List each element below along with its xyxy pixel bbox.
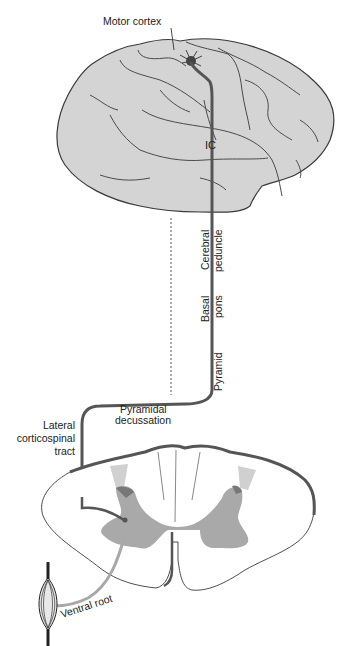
corticospinal-pathway-diagram: Motor cortex IC Cerebral peduncle Basal … <box>0 0 349 646</box>
diagram-canvas: Motor cortex IC Cerebral peduncle Basal … <box>0 0 349 646</box>
label-cerebral-peduncle-line1: Cerebral <box>199 230 211 270</box>
label-motor-cortex: Motor cortex <box>103 15 162 27</box>
brain <box>57 28 334 212</box>
label-pyramidal-decussation-line2: decussation <box>115 414 171 426</box>
label-internal-capsule: IC <box>205 139 216 151</box>
label-basal-pons-line2: pons <box>212 295 224 318</box>
muscle-icon <box>39 562 57 646</box>
label-pyramid: Pyramid <box>212 352 224 391</box>
label-lateral-cst-line1: Lateral <box>43 419 75 431</box>
spinal-cord-section <box>42 446 315 590</box>
lower-motor-neuron-icon <box>123 518 128 523</box>
label-lateral-cst-line3: tract <box>55 445 76 457</box>
label-lateral-cst-line2: corticospinal <box>17 432 75 444</box>
label-cerebral-peduncle-line2: peduncle <box>212 229 224 272</box>
label-basal-pons-line1: Basal <box>199 296 211 322</box>
label-ventral-root: Ventral root <box>59 592 114 620</box>
